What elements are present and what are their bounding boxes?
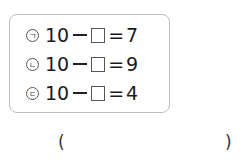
equation-row-1: ㄱ 10 = 7 (26, 23, 138, 47)
blank-square[interactable] (91, 57, 105, 72)
marker-digeut-icon: ㄷ (26, 87, 39, 100)
result: 4 (126, 82, 138, 104)
minuend: 10 (45, 24, 69, 46)
equals-sign: = (108, 53, 124, 75)
blank-square[interactable] (91, 86, 105, 101)
blank-square[interactable] (91, 28, 105, 43)
minuend: 10 (45, 53, 69, 75)
answer-field[interactable] (70, 134, 220, 154)
answer-close-paren: ) (225, 132, 232, 152)
minuend: 10 (45, 82, 69, 104)
marker-nieun-icon: ㄴ (26, 58, 39, 71)
equation-row-2: ㄴ 10 = 9 (26, 52, 138, 76)
equals-sign: = (108, 82, 124, 104)
minus-sign (73, 92, 87, 94)
minus-sign (73, 34, 87, 36)
answer-open-paren: ( (58, 132, 65, 152)
result: 9 (126, 53, 138, 75)
marker-giyeok-icon: ㄱ (26, 29, 39, 42)
result: 7 (126, 24, 138, 46)
equals-sign: = (108, 24, 124, 46)
minus-sign (73, 63, 87, 65)
equation-row-3: ㄷ 10 = 4 (26, 81, 138, 105)
